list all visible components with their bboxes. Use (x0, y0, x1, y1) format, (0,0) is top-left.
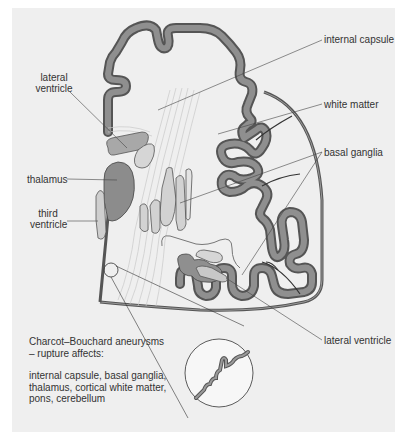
label-third-ventricle-line2: ventricle (30, 219, 66, 230)
label-white-matter: white matter (324, 99, 378, 110)
note-title-line2: – rupture affects: (29, 348, 169, 360)
label-lateral-ventricle-top-line1: lateral (34, 72, 74, 83)
charcot-bouchard-note: Charcot–Bouchard aneurysms – rupture aff… (29, 336, 169, 405)
aneurysm-magnified-view (185, 339, 253, 407)
aneurysm-locator-circle (104, 263, 118, 277)
label-basal-ganglia: basal ganglia (324, 147, 383, 158)
thalamus-structure (104, 162, 134, 221)
label-internal-capsule: internal capsule (324, 34, 394, 45)
label-lateral-ventricle-bottom: lateral ventricle (324, 335, 391, 346)
note-body-line2: thalamus, cortical white matter, (29, 382, 169, 394)
label-third-ventricle: third ventricle (30, 208, 66, 230)
label-lateral-ventricle-top: lateral ventricle (34, 72, 74, 94)
label-thalamus: thalamus (27, 174, 68, 185)
third-ventricle-structure (96, 190, 106, 239)
label-lateral-ventricle-top-line2: ventricle (34, 83, 74, 94)
label-third-ventricle-line1: third (30, 208, 66, 219)
note-body-line3: pons, cerebellum (29, 393, 169, 405)
note-body-line1: internal capsule, basal ganglia, (29, 370, 169, 382)
note-title-line1: Charcot–Bouchard aneurysms (29, 336, 169, 348)
